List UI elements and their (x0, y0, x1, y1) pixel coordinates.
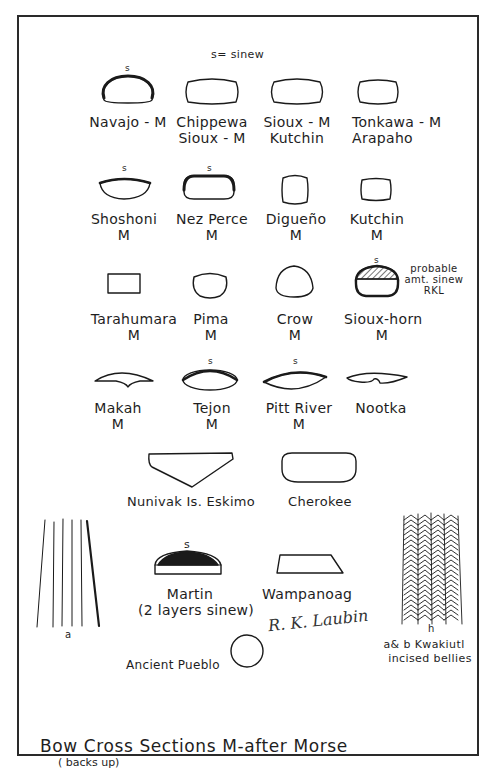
navajo-shape (103, 76, 153, 103)
makah-shape (95, 373, 153, 387)
label-sioux-kutchin: Sioux - MKutchin (262, 114, 332, 146)
sinew-mark: s (374, 256, 379, 265)
label-tejon: TejonM (184, 400, 240, 432)
label-crow: CrowM (270, 311, 320, 343)
sioux-horn-shape (356, 266, 398, 296)
shoshoni-shape (100, 179, 150, 199)
label-tarahumara: TarahumaraM (82, 311, 186, 343)
label-chippewa: ChippewaSioux - M (172, 114, 252, 146)
note-kwakiutl: a& b Kwakiutl incised bellies (368, 638, 480, 666)
label-wampanoag: Wampanoag (262, 586, 346, 602)
sinew-mark: s (122, 164, 127, 173)
note-probable-sinew: probable amt. sinew RKL (402, 263, 466, 296)
legend-sinew: s= sinew (211, 48, 264, 61)
belly-b-label: h (428, 624, 434, 633)
belly-b-herringbone (402, 513, 462, 624)
belly-a-label: a (65, 630, 71, 639)
label-shoshoni: ShoshoniM (84, 211, 164, 243)
nez-perce-shape (184, 176, 234, 199)
label-sioux-horn: Sioux-hornM (344, 311, 420, 343)
sinew-mark: s (184, 540, 190, 549)
label-martin: Martin(2 layers sinew) (138, 586, 242, 618)
belly-a-lines (37, 519, 99, 627)
label-kutchin: KutchinM (344, 211, 410, 243)
label-pima: PimaM (186, 311, 236, 343)
nootka-shape (347, 373, 407, 383)
sinew-mark: s (125, 64, 130, 73)
diagram-title: Bow Cross Sections M-after Morse (40, 736, 348, 756)
sinew-mark: s (207, 164, 212, 173)
pitt-river-shape (264, 373, 326, 389)
pima-shape (193, 274, 227, 299)
label-ancient-pueblo: Ancient Pueblo (118, 657, 228, 673)
diagram-subtitle: ( backs up) (58, 756, 119, 769)
tarahumara-shape (108, 274, 140, 293)
label-cherokee: Cherokee (282, 494, 358, 510)
chippewa-shape (186, 79, 238, 104)
label-nez-perce: Nez PerceM (172, 211, 252, 243)
martin-shape (155, 551, 221, 574)
tonkawa-shape (358, 80, 398, 104)
tejon-shape (183, 370, 237, 390)
sinew-mark: s (208, 357, 213, 366)
label-makah: MakahM (90, 400, 146, 432)
crow-shape (276, 266, 313, 297)
wampanoag-shape (277, 555, 343, 573)
label-pitt-river: Pitt RiverM (262, 400, 336, 432)
label-digueno: DigueñoM (258, 211, 334, 243)
label-navajo: Navajo - M (86, 114, 170, 130)
digueno-shape (282, 176, 308, 205)
label-tonkawa: Tonkawa - MArapaho (352, 114, 442, 146)
ancient-pueblo-shape (231, 635, 263, 667)
sioux-kutchin-shape (272, 79, 323, 104)
label-nootka: Nootka (348, 400, 414, 416)
label-nunivak: Nunivak Is. Eskimo (116, 494, 266, 510)
nunivak-shape (149, 453, 233, 487)
sinew-mark: s (293, 357, 298, 366)
cherokee-shape (282, 453, 356, 482)
kutchin-shape (361, 179, 391, 201)
